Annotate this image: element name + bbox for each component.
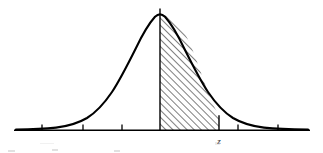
scan-artifact-speck	[215, 142, 220, 145]
hatched-region	[158, 10, 222, 132]
distribution-chart-canvas: z	[0, 0, 323, 153]
scan-artifact-speck	[40, 143, 54, 144]
scan-artifact-speck	[114, 150, 120, 152]
scan-artifact-speck	[52, 149, 58, 151]
shaded-area-group	[158, 10, 222, 132]
normal-distribution-figure: z	[0, 0, 323, 153]
scan-artifact-speck	[8, 150, 15, 152]
